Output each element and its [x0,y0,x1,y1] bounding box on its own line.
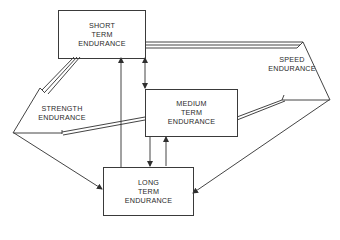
label-line: ENDURANCE [262,64,322,73]
edge-speed-to-short [145,42,303,48]
medium-term-endurance-label: MEDIUM TERM ENDURANCE [145,99,238,126]
short-term-endurance-label: SHORT TERM ENDURANCE [58,21,146,48]
label-line: SPEED [262,55,322,64]
edge-strength-to-long [14,133,102,189]
label-line: TERM [145,108,238,117]
strength-endurance-label: STRENGTH ENDURANCE [30,104,94,122]
label-line: TERM [103,187,194,196]
label-line: TERM [58,30,146,39]
label-line: ENDURANCE [145,117,238,126]
label-line: ENDURANCE [103,196,194,205]
edge-strength-to-short [42,57,80,94]
edge-medium-long [150,136,166,166]
label-line: STRENGTH [30,104,94,113]
label-line: LONG [103,178,194,187]
label-line: MEDIUM [145,99,238,108]
long-term-endurance-label: LONG TERM ENDURANCE [103,178,194,205]
label-line: SHORT [58,21,146,30]
edge-speed-to-medium [237,100,285,120]
label-line: ENDURANCE [58,39,146,48]
speed-endurance-label: SPEED ENDURANCE [262,55,322,73]
label-line: ENDURANCE [30,113,94,122]
